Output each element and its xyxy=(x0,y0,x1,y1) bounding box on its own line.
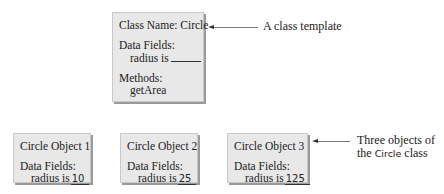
radius-value: 25 xyxy=(178,174,197,185)
circle-code-text: Circle xyxy=(375,148,402,159)
radius-field: radius is125 xyxy=(234,172,307,185)
objects-arrow xyxy=(316,141,350,142)
circle-object-3: Circle Object 3 Data Fields: radius is12… xyxy=(227,133,308,183)
methods-header: Methods: xyxy=(119,72,203,85)
class-template-label: A class template xyxy=(263,20,342,33)
data-fields-header: Data Fields: xyxy=(234,160,307,173)
objects-label-line2: the Circle class xyxy=(357,147,435,160)
radius-value: 10 xyxy=(71,174,90,185)
circle-object-2: Circle Object 2 Data Fields: radius is25 xyxy=(120,133,198,183)
radius-field: radius is xyxy=(119,51,203,65)
object-title: Circle Object 2 xyxy=(127,140,197,153)
radius-blank xyxy=(171,51,201,62)
object-title: Circle Object 1 xyxy=(20,140,90,153)
method-getarea: getArea xyxy=(119,84,203,97)
data-fields-header: Data Fields: xyxy=(119,39,203,52)
radius-field: radius is10 xyxy=(20,172,90,185)
class-arrow xyxy=(212,27,258,28)
radius-value: 125 xyxy=(285,174,310,185)
class-name: Class Name: Circle xyxy=(119,19,203,32)
radius-label: radius is xyxy=(245,172,284,184)
data-fields-header: Data Fields: xyxy=(127,160,197,173)
class-template-box: Class Name: Circle Data Fields: radius i… xyxy=(112,12,204,102)
radius-label: radius is xyxy=(130,52,169,64)
arrowhead-icon xyxy=(312,139,318,143)
arrowhead-icon xyxy=(208,25,214,29)
radius-label: radius is xyxy=(31,172,70,184)
objects-label: Three objects of the Circle class xyxy=(357,134,435,160)
circle-object-1: Circle Object 1 Data Fields: radius is10 xyxy=(13,133,91,183)
radius-field: radius is25 xyxy=(127,172,197,185)
object-title: Circle Object 3 xyxy=(234,140,307,153)
radius-label: radius is xyxy=(138,172,177,184)
data-fields-header: Data Fields: xyxy=(20,160,90,173)
